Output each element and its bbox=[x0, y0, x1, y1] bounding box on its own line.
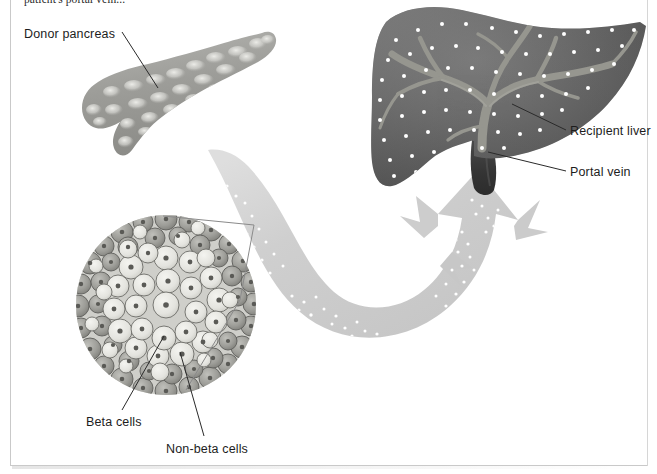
label-donor-pancreas: Donor pancreas bbox=[24, 27, 115, 41]
label-non-beta-cells: Non-beta cells bbox=[166, 442, 248, 456]
label-recipient-liver: Recipient liver bbox=[570, 124, 651, 138]
recipient-liver-organ bbox=[371, 7, 646, 186]
islet-infusion-flow-arrow bbox=[208, 150, 548, 357]
islet-transplantation-figure: patient's portal vein... bbox=[0, 0, 657, 474]
label-portal-vein: Portal vein bbox=[570, 165, 631, 179]
label-beta-cells: Beta cells bbox=[86, 415, 142, 429]
pancreas-lobules bbox=[86, 35, 275, 148]
donor-pancreas-organ bbox=[82, 32, 276, 156]
leader-portal-vein bbox=[488, 152, 566, 171]
diagram-artwork bbox=[0, 0, 657, 474]
islet-of-langerhans-magnified bbox=[67, 208, 265, 402]
